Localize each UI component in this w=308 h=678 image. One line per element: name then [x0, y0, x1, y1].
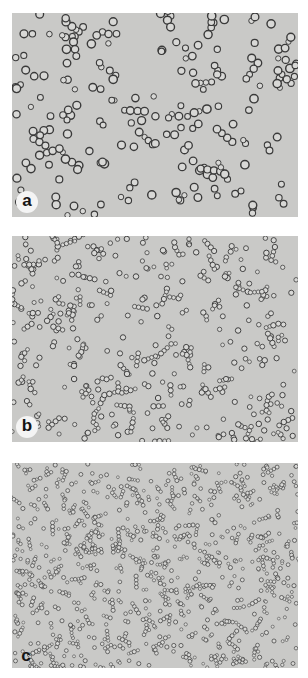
panel-label-b: b [16, 416, 38, 438]
cells-layer-a [12, 13, 298, 217]
micrograph-panel-b: b [12, 236, 298, 442]
panel-label-a: a [16, 191, 38, 213]
cells-layer-b [12, 236, 298, 442]
micrograph-panel-a: a [12, 13, 298, 217]
micrograph-panel-c: c [12, 463, 298, 668]
panel-label-c: c [17, 647, 35, 665]
cells-layer-c [12, 463, 298, 668]
